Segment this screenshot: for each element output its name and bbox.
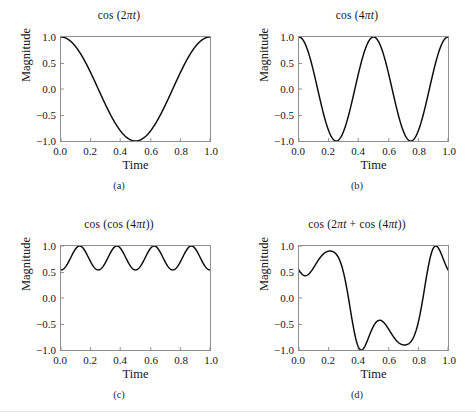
panel-a-caption: (a) bbox=[0, 180, 238, 192]
x-tick-label: 0.2 bbox=[311, 354, 345, 366]
panel-d-curve-svg bbox=[299, 246, 448, 350]
panel-b-ticks bbox=[299, 37, 448, 141]
x-tick-label: 0.6 bbox=[134, 145, 168, 157]
panel-a-y-ticks: 1.0 0.5 0.0 −0.5 −1.0 bbox=[22, 36, 56, 142]
y-tick-label: 1.0 bbox=[26, 32, 56, 43]
panel-d-plot-area bbox=[298, 245, 449, 351]
panel-c-title: cos (cos (4πt)) bbox=[0, 217, 238, 231]
panel-d-ticks bbox=[299, 246, 448, 350]
plot-panel-c: cos (cos (4πt)) Magnitude 1.0 0.5 0.0 −0… bbox=[0, 209, 238, 418]
panel-b-x-axis-label: Time bbox=[298, 158, 449, 172]
x-tick-label: 0.0 bbox=[281, 354, 315, 366]
y-tick-label: 1.0 bbox=[26, 241, 56, 252]
x-tick-label: 0.6 bbox=[134, 354, 168, 366]
panel-a-title-pre: cos (2 bbox=[98, 9, 127, 21]
panel-c-curve-svg bbox=[61, 246, 210, 350]
x-tick-label: 0.0 bbox=[43, 145, 77, 157]
panel-c-y-ticks: 1.0 0.5 0.0 −0.5 −1.0 bbox=[22, 245, 56, 351]
x-tick-label: 0.4 bbox=[103, 354, 137, 366]
x-tick-label: 0.4 bbox=[103, 145, 137, 157]
y-tick-label: 0.0 bbox=[264, 293, 294, 304]
y-tick-label: 0.0 bbox=[264, 84, 294, 95]
panel-b-x-ticks: 0.0 0.2 0.4 0.6 0.8 1.0 bbox=[298, 145, 449, 159]
y-tick-label: 1.0 bbox=[264, 241, 294, 252]
panel-c-data-curve bbox=[61, 246, 210, 270]
x-tick-label: 1.0 bbox=[432, 354, 466, 366]
x-tick-label: 0.6 bbox=[372, 145, 406, 157]
panel-a-x-axis-label: Time bbox=[60, 158, 211, 172]
x-tick-label: 0.2 bbox=[311, 145, 345, 157]
panel-c-x-ticks: 0.0 0.2 0.4 0.6 0.8 1.0 bbox=[60, 354, 211, 368]
x-tick-label: 0.6 bbox=[372, 354, 406, 366]
panel-d-x-ticks: 0.0 0.2 0.4 0.6 0.8 1.0 bbox=[298, 354, 449, 368]
x-tick-label: 0.8 bbox=[164, 354, 198, 366]
x-tick-label: 0.4 bbox=[341, 354, 375, 366]
x-tick-label: 0.4 bbox=[341, 145, 375, 157]
panel-d-caption: (d) bbox=[238, 389, 476, 401]
x-tick-label: 0.8 bbox=[164, 145, 198, 157]
panel-a-plot-area bbox=[60, 36, 211, 142]
x-tick-label: 0.2 bbox=[73, 145, 107, 157]
scan-artifact-line bbox=[0, 411, 476, 412]
y-tick-label: 0.5 bbox=[264, 58, 294, 69]
y-tick-label: −0.5 bbox=[26, 319, 56, 330]
panel-c-caption: (c) bbox=[0, 389, 238, 401]
panel-b-title: cos (4πt) bbox=[238, 8, 476, 22]
panel-d-data-curve bbox=[299, 246, 448, 350]
panel-b-y-ticks: 1.0 0.5 0.0 −0.5 −1.0 bbox=[260, 36, 294, 142]
x-tick-label: 0.8 bbox=[402, 354, 436, 366]
x-tick-label: 0.0 bbox=[281, 145, 315, 157]
panel-a-curve-svg bbox=[61, 37, 210, 141]
panel-d-title: cos (2πt + cos (4πt)) bbox=[238, 217, 476, 231]
y-tick-label: 1.0 bbox=[264, 32, 294, 43]
y-tick-label: 0.5 bbox=[26, 58, 56, 69]
plot-panel-a: cos (2πt) Magnitude 1.0 0.5 0.0 −0.5 −1.… bbox=[0, 0, 238, 209]
x-tick-label: 1.0 bbox=[432, 145, 466, 157]
y-tick-label: −0.5 bbox=[264, 110, 294, 121]
panel-b-title-post: ) bbox=[374, 9, 378, 21]
figure-panel-grid: cos (2πt) Magnitude 1.0 0.5 0.0 −0.5 −1.… bbox=[0, 0, 476, 418]
y-tick-label: −0.5 bbox=[264, 319, 294, 330]
panel-d-title-post: )) bbox=[398, 218, 406, 230]
panel-c-x-axis-label: Time bbox=[60, 367, 211, 381]
y-tick-label: 0.0 bbox=[26, 293, 56, 304]
panel-c-plot-area bbox=[60, 245, 211, 351]
x-tick-label: 0.2 bbox=[73, 354, 107, 366]
panel-b-title-pre: cos (4 bbox=[336, 9, 365, 21]
panel-d-title-pre: cos (2 bbox=[308, 218, 337, 230]
panel-c-ticks bbox=[61, 246, 210, 350]
y-tick-label: 0.5 bbox=[26, 267, 56, 278]
panel-b-caption: (b) bbox=[238, 180, 476, 192]
plot-panel-d: cos (2πt + cos (4πt)) Magnitude 1.0 0.5 … bbox=[238, 209, 476, 418]
panel-d-x-axis-label: Time bbox=[298, 367, 449, 381]
panel-a-data-curve bbox=[61, 37, 210, 141]
panel-a-title-post: ) bbox=[136, 9, 140, 21]
panel-b-curve-svg bbox=[299, 37, 448, 141]
y-tick-label: 0.5 bbox=[264, 267, 294, 278]
y-tick-label: −0.5 bbox=[26, 110, 56, 121]
y-tick-label: 0.0 bbox=[26, 84, 56, 95]
panel-a-x-ticks: 0.0 0.2 0.4 0.6 0.8 1.0 bbox=[60, 145, 211, 159]
panel-c-title-pre: cos (cos (4 bbox=[84, 218, 136, 230]
x-tick-label: 0.8 bbox=[402, 145, 436, 157]
x-tick-label: 1.0 bbox=[194, 354, 228, 366]
plot-panel-b: cos (4πt) Magnitude 1.0 0.5 0.0 −0.5 −1.… bbox=[238, 0, 476, 209]
panel-a-ticks bbox=[61, 37, 210, 141]
x-tick-label: 0.0 bbox=[43, 354, 77, 366]
panel-b-data-curve bbox=[299, 37, 448, 141]
panel-d-title-mid: + cos (4 bbox=[347, 218, 389, 230]
panel-a-title: cos (2πt) bbox=[0, 8, 238, 22]
panel-d-y-ticks: 1.0 0.5 0.0 −0.5 −1.0 bbox=[260, 245, 294, 351]
x-tick-label: 1.0 bbox=[194, 145, 228, 157]
panel-c-title-post: )) bbox=[146, 218, 154, 230]
panel-b-plot-area bbox=[298, 36, 449, 142]
